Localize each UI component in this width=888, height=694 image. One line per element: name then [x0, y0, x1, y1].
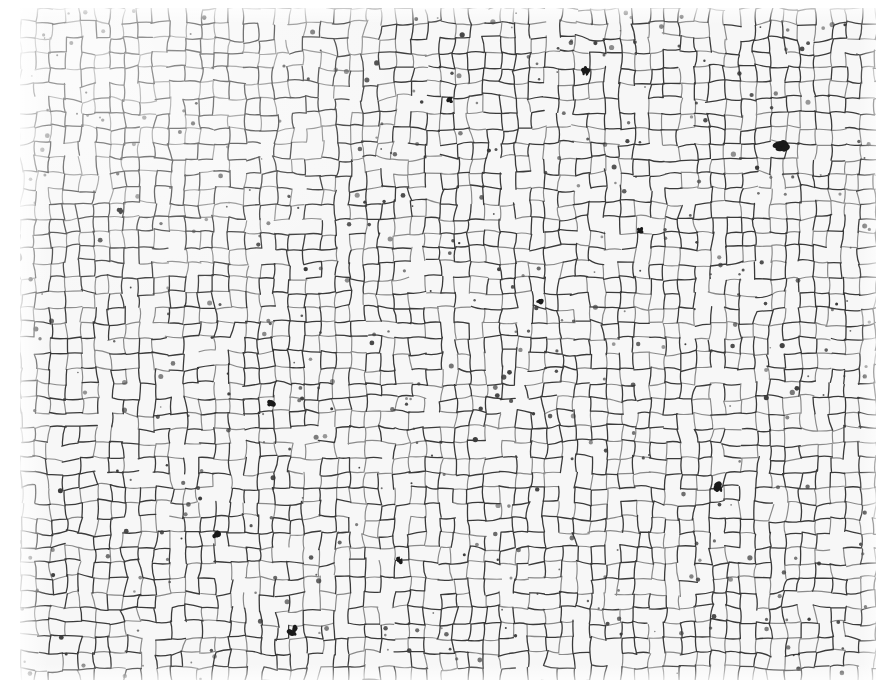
triple-point-spot	[728, 577, 733, 582]
triple-point-spot	[603, 378, 606, 381]
triple-point-spot	[710, 350, 713, 353]
triple-point-spot	[527, 329, 530, 332]
triple-point-spot	[814, 110, 816, 112]
triple-point-spot	[271, 475, 276, 480]
triple-point-spot	[694, 308, 696, 310]
triple-point-spot	[630, 16, 633, 19]
triple-point-spot	[586, 138, 589, 141]
triple-point-spot	[594, 271, 596, 273]
triple-point-spot	[319, 331, 322, 334]
triple-point-spot	[831, 308, 834, 311]
triple-point-spot	[460, 32, 465, 37]
triple-point-spot	[764, 395, 769, 400]
triple-point-spot	[254, 592, 257, 595]
triple-point-spot	[823, 394, 825, 396]
triple-point-spot	[324, 626, 329, 631]
triple-point-spot	[249, 189, 251, 191]
triple-point-spot	[695, 241, 698, 244]
triple-point-spot	[337, 531, 339, 533]
triple-point-spot	[108, 548, 110, 550]
triple-point-spot	[865, 365, 868, 368]
triple-point-spot	[380, 122, 383, 125]
triple-point-spot	[202, 15, 207, 20]
triple-point-spot	[632, 431, 636, 435]
triple-point-spot	[612, 342, 616, 346]
triple-point-spot	[718, 503, 722, 507]
triple-point-spot	[750, 93, 754, 97]
triple-point-spot	[263, 441, 265, 443]
triple-point-spot	[137, 629, 139, 631]
triple-point-spot	[169, 186, 172, 189]
triple-point-spot	[186, 502, 191, 507]
triple-point-spot	[195, 102, 198, 105]
triple-point-spot	[532, 412, 535, 415]
triple-point-spot	[572, 319, 575, 322]
triple-point-spot	[431, 455, 433, 457]
triple-point-spot	[842, 647, 845, 650]
triple-point-spot	[713, 539, 716, 542]
triple-point-spot	[639, 141, 642, 144]
triple-point-spot	[227, 392, 230, 395]
triple-point-spot	[449, 363, 454, 368]
triple-point-spot	[717, 255, 721, 259]
triple-point-spot	[196, 486, 200, 490]
triple-point-spot	[557, 47, 560, 50]
triple-point-spot	[463, 553, 466, 556]
triple-point-spot	[256, 243, 260, 247]
triple-point-spot	[315, 574, 317, 576]
triple-point-spot	[142, 665, 144, 667]
triple-point-spot	[181, 481, 185, 485]
triple-point-spot	[36, 589, 39, 592]
triple-point-spot	[297, 207, 299, 209]
triple-point-spot	[770, 106, 774, 110]
triple-point-spot	[473, 437, 478, 442]
triple-point-spot	[405, 403, 408, 406]
triple-point-spot	[135, 194, 140, 199]
triple-point-spot	[760, 260, 764, 264]
triple-point-spot	[293, 362, 295, 364]
triple-point-spot	[178, 130, 182, 134]
triple-point-spot	[44, 37, 46, 39]
triple-point-spot	[282, 64, 285, 67]
triple-point-spot	[680, 15, 684, 19]
triple-point-spot	[840, 671, 845, 676]
triple-point-spot	[710, 273, 712, 275]
triple-point-spot	[695, 542, 699, 546]
triple-point-spot	[457, 73, 462, 78]
triple-point-spot	[458, 131, 463, 136]
triple-point-spot	[603, 142, 608, 147]
triple-point-spot	[218, 174, 223, 179]
triple-point-spot	[493, 385, 498, 390]
triple-point-spot	[83, 391, 87, 395]
triple-point-spot	[867, 142, 871, 146]
triple-point-spot	[358, 147, 363, 152]
triple-point-spot	[793, 654, 795, 656]
triple-point-spot	[620, 30, 622, 32]
triple-point-spot	[226, 428, 230, 432]
triple-point-spot	[857, 140, 860, 143]
triple-point-spot	[33, 409, 36, 412]
triple-point-spot	[301, 315, 304, 318]
triple-point-spot	[697, 179, 701, 183]
triple-point-spot	[417, 382, 420, 385]
triple-point-spot	[258, 235, 261, 238]
triple-point-spot	[113, 340, 115, 342]
triple-point-spot	[807, 375, 809, 377]
triple-point-spot	[511, 285, 515, 289]
triple-point-spot	[307, 77, 310, 80]
triple-point-spot	[473, 299, 475, 301]
triple-point-spot	[41, 293, 43, 295]
triple-point-spot	[449, 648, 452, 651]
triple-point-spot	[624, 310, 626, 312]
triple-point-spot	[786, 28, 790, 32]
triple-point-spot	[698, 559, 701, 562]
triple-point-spot	[495, 148, 498, 151]
triple-point-spot	[569, 40, 574, 45]
triple-point-spot	[302, 497, 304, 499]
triple-point-spot	[786, 645, 790, 649]
triple-point-spot	[81, 664, 85, 668]
triple-point-spot	[514, 634, 517, 637]
triple-point-spot	[868, 228, 871, 231]
triple-point-spot	[604, 449, 608, 453]
triple-point-spot	[785, 619, 788, 622]
